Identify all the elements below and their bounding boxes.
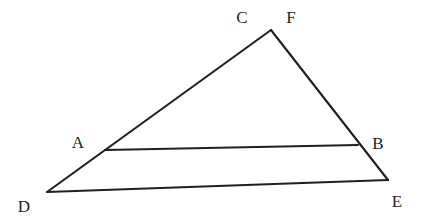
vertex-label-F: F [286, 9, 295, 26]
vertex-label-E: E [392, 193, 402, 210]
vertex-label-B: B [372, 135, 383, 152]
vertex-label-A: A [72, 134, 84, 151]
geometry-diagram: C F A B D E [0, 0, 422, 224]
vertex-label-C: C [236, 9, 247, 26]
vertex-label-D: D [18, 198, 30, 215]
diagram-canvas [0, 0, 422, 224]
